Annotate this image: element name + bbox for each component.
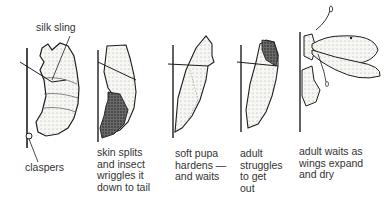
- caption-stage-5: adult waits as wings expand and dry: [299, 146, 363, 181]
- stage-1-larva: [20, 36, 79, 162]
- stage-4-adult-emerging: [237, 40, 278, 132]
- callout-silk-sling: silk sling: [36, 22, 76, 34]
- caption-stage-4: adult struggles to get out: [240, 148, 283, 194]
- caption-stage-2: skin splits and insect wriggles it down …: [97, 147, 150, 193]
- callout-claspers: claspers: [25, 162, 64, 174]
- caption-stage-3: soft pupa hardens — and waits: [175, 148, 226, 183]
- stage-3-pupa: [168, 36, 214, 138]
- stage-2-skin-splits: [98, 45, 136, 142]
- stage-5-adult-wings: [300, 6, 380, 132]
